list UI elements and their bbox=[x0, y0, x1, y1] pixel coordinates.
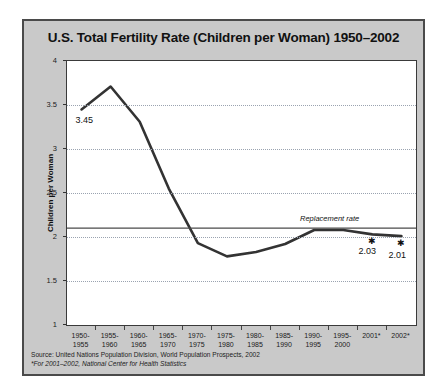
x-tick-line: 1985 bbox=[246, 341, 264, 350]
x-tick-line: 1960- bbox=[130, 332, 148, 341]
asterisk-marker: ✱ bbox=[368, 237, 376, 246]
plot-area: 3.452.032.01Replacement rate✱✱ bbox=[66, 60, 417, 326]
y-tick-label: 4 bbox=[53, 56, 57, 65]
gridline bbox=[67, 193, 416, 194]
x-tick-label: 1985-1990 bbox=[275, 332, 293, 349]
x-tick-line: 1975- bbox=[217, 332, 235, 341]
x-tick-line: 1965- bbox=[159, 332, 177, 341]
y-tick-label: 1 bbox=[53, 320, 57, 329]
gridline bbox=[67, 237, 416, 238]
x-tick-line: 1970 bbox=[159, 341, 177, 350]
x-tick-line: 2001* bbox=[362, 332, 380, 341]
x-tick-label: 2002* bbox=[391, 332, 409, 341]
replacement-rate-label: Replacement rate bbox=[300, 214, 359, 223]
x-tick-line: 1950- bbox=[72, 332, 90, 341]
x-tick-label: 1960-1965 bbox=[130, 332, 148, 349]
x-tick-line: 1955- bbox=[101, 332, 119, 341]
x-tick-label: 1950-1955 bbox=[72, 332, 90, 349]
x-tick-line: 1990- bbox=[304, 332, 322, 341]
x-tick-label: 1995-2000 bbox=[333, 332, 351, 349]
data-label-2001: 2.03 bbox=[358, 246, 376, 256]
x-tick-mark bbox=[211, 326, 212, 330]
x-tick-line: 1990 bbox=[275, 341, 293, 350]
x-tick-line: 1975 bbox=[188, 341, 206, 350]
x-tick-mark bbox=[357, 326, 358, 330]
x-tick-mark bbox=[328, 326, 329, 330]
y-tick-label: 2 bbox=[53, 232, 57, 241]
x-tick-label: 1965-1970 bbox=[159, 332, 177, 349]
source-block: Source: United Nations Population Divisi… bbox=[31, 350, 260, 368]
x-tick-line: 2002* bbox=[391, 332, 409, 341]
y-tick-label: 3.5 bbox=[47, 100, 57, 109]
y-tick-label: 2.5 bbox=[47, 188, 57, 197]
x-tick-mark bbox=[124, 326, 125, 330]
plot-inner: 3.452.032.01Replacement rate✱✱ bbox=[67, 61, 416, 325]
x-tick-line: 1970- bbox=[188, 332, 206, 341]
gridline bbox=[67, 105, 416, 106]
chart-figure: U.S. Total Fertility Rate (Children per … bbox=[22, 19, 425, 376]
y-tick-label: 3 bbox=[53, 144, 57, 153]
x-tick-mark bbox=[386, 326, 387, 330]
y-tick-label: 1.5 bbox=[47, 276, 57, 285]
x-tick-line: 1985- bbox=[275, 332, 293, 341]
fertility-rate-line bbox=[82, 87, 402, 257]
x-tick-line: 1960 bbox=[101, 341, 119, 350]
asterisk-marker: ✱ bbox=[397, 239, 405, 248]
x-tick-mark bbox=[95, 326, 96, 330]
source-text: Source: United Nations Population Divisi… bbox=[31, 350, 260, 359]
source-note: *For 2001–2002, National Center for Heal… bbox=[31, 359, 260, 368]
data-label-1950: 3.45 bbox=[76, 115, 94, 125]
x-tick-label: 1990-1995 bbox=[304, 332, 322, 349]
x-tick-line: 1980- bbox=[246, 332, 264, 341]
x-tick-line: 1995- bbox=[333, 332, 351, 341]
x-tick-mark bbox=[299, 326, 300, 330]
x-tick-mark bbox=[153, 326, 154, 330]
gridline bbox=[67, 149, 416, 150]
chart-title: U.S. Total Fertility Rate (Children per … bbox=[24, 30, 423, 45]
gridline bbox=[67, 281, 416, 282]
x-tick-line: 1995 bbox=[304, 341, 322, 350]
x-tick-line: 1965 bbox=[130, 341, 148, 350]
x-tick-line: 2000 bbox=[333, 341, 351, 350]
x-tick-mark bbox=[270, 326, 271, 330]
x-tick-line: 1955 bbox=[72, 341, 90, 350]
x-tick-mark bbox=[182, 326, 183, 330]
x-tick-label: 1980-1985 bbox=[246, 332, 264, 349]
data-label-2002: 2.01 bbox=[388, 250, 406, 260]
x-tick-label: 1975-1980 bbox=[217, 332, 235, 349]
x-tick-label: 1955-1960 bbox=[101, 332, 119, 349]
x-tick-label: 2001* bbox=[362, 332, 380, 341]
x-tick-label: 1970-1975 bbox=[188, 332, 206, 349]
x-tick-mark bbox=[241, 326, 242, 330]
x-tick-line: 1980 bbox=[217, 341, 235, 350]
